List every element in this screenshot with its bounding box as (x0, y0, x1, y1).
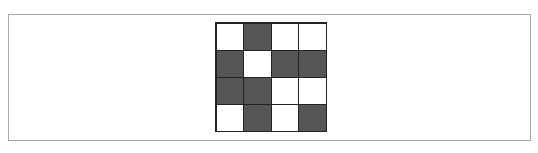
grid-cell-r2-c2-light (243, 50, 272, 78)
grid-cell-r2-c1-dark (216, 50, 245, 78)
grid-cell-r4-c2-dark (243, 104, 272, 132)
grid-cell-r2-c3-dark (271, 50, 300, 78)
grid-cell-r4-c3-light (271, 104, 300, 132)
checker-grid (215, 22, 327, 132)
grid-cell-r1-c3-light (271, 23, 300, 51)
grid-cell-r4-c4-dark (298, 104, 327, 132)
grid-cell-r1-c2-dark (243, 23, 272, 51)
grid-cell-r4-c1-light (216, 104, 245, 132)
grid-cell-r3-c4-light (298, 77, 327, 105)
grid-cell-r2-c4-dark (298, 50, 327, 78)
grid-cell-r3-c2-dark (243, 77, 272, 105)
grid-cell-r3-c1-dark (216, 77, 245, 105)
grid-cell-r1-c1-light (216, 23, 245, 51)
grid-cell-r3-c3-light (271, 77, 300, 105)
grid-cell-r1-c4-light (298, 23, 327, 51)
